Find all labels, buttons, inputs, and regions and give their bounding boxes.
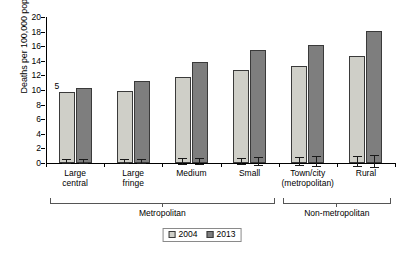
x-axis-category-label: Large central (42, 168, 108, 188)
error-bar-cap-bottom (120, 163, 129, 164)
y-axis-tick-label: 0 (21, 159, 41, 167)
error-bar-cap-top (137, 159, 146, 160)
error-bar-cap-top (254, 157, 263, 158)
bar-2004[interactable] (175, 77, 191, 163)
error-bar-cap-top (370, 155, 379, 156)
legend-label-2004: 2004 (179, 230, 198, 239)
x-axis-category-label: Town/city (metropolitan) (275, 168, 341, 188)
legend-swatch-icon-2004 (169, 231, 176, 238)
y-axis-tick-label: 20 (21, 13, 41, 21)
x-axis-tick (337, 163, 338, 167)
x-axis-category-label: Large fringe (100, 168, 166, 188)
bracket-center-tick (162, 203, 163, 207)
y-axis-tick-label: 2 (21, 144, 41, 152)
x-axis-category-label: Small (217, 168, 283, 178)
y-axis-line (46, 17, 47, 164)
bar-2013[interactable] (308, 45, 324, 163)
bar-2004[interactable] (349, 56, 365, 163)
error-bar-cap-bottom (295, 165, 304, 166)
y-axis-tick-label: 18 (21, 28, 41, 36)
y-axis-tick (41, 32, 45, 33)
category-group-brackets: MetropolitanNon-metropolitan (46, 198, 395, 228)
bar-2013[interactable] (366, 31, 382, 163)
y-axis-tick (41, 148, 45, 149)
y-axis-tick (41, 75, 45, 76)
y-axis-tick (41, 90, 45, 91)
error-bar-cap-bottom (237, 164, 246, 165)
error-bar-cap-top (312, 156, 321, 157)
error-bar-cap-top (237, 158, 246, 159)
bracket-center-tick (336, 203, 337, 207)
bracket-right-tick (390, 198, 391, 203)
error-bar-cap-top (295, 157, 304, 158)
x-axis-tick (279, 163, 280, 167)
error-bar-cap-bottom (62, 163, 71, 164)
legend-item-2013[interactable]: 2013 (207, 230, 236, 239)
legend-item-2004[interactable]: 2004 (169, 230, 198, 239)
bar-2004[interactable] (291, 66, 307, 163)
error-bar-cap-bottom (137, 163, 146, 164)
group-bracket-label: Non-metropolitan (253, 208, 404, 218)
x-axis-category-label: Rural (333, 168, 399, 178)
y-axis-tick-label: 6 (21, 115, 41, 123)
bar-group (175, 17, 208, 163)
bar-group (233, 17, 266, 163)
bar-2013[interactable] (76, 88, 92, 163)
bar-group (59, 17, 92, 163)
y-axis-tick (41, 61, 45, 62)
x-axis-tick (395, 163, 396, 167)
category-labels: Large centralLarge fringeMediumSmallTown… (46, 168, 395, 198)
group-bracket (283, 198, 391, 205)
bar-2013[interactable] (134, 81, 150, 163)
y-axis-tick-label: 14 (21, 57, 41, 65)
y-axis-tick (41, 17, 45, 18)
bracket-right-tick (274, 198, 275, 203)
y-axis-tick (41, 134, 45, 135)
bar-group (117, 17, 150, 163)
plot-area: 02468101214161820 5 (46, 17, 395, 164)
legend-swatch-icon-2013 (207, 231, 214, 238)
bar-group (291, 17, 324, 163)
y-axis-tick-label: 12 (21, 71, 41, 79)
error-bar-cap-top (120, 159, 129, 160)
error-bar-cap-top (195, 158, 204, 159)
error-bar-cap-bottom (178, 164, 187, 165)
y-axis-tick (41, 105, 45, 106)
y-axis-tick-label: 10 (21, 86, 41, 94)
error-bar-cap-top (353, 156, 362, 157)
y-axis-tick-label: 16 (21, 42, 41, 50)
y-axis-tick (41, 163, 45, 164)
error-bar-cap-bottom (254, 165, 263, 166)
bar-2013[interactable] (250, 50, 266, 163)
x-axis-category-label: Medium (158, 168, 224, 178)
bar-2004[interactable] (117, 91, 133, 163)
y-axis-tick-label: 8 (21, 101, 41, 109)
legend-label-2013: 2013 (217, 230, 236, 239)
error-bar-cap-top (62, 159, 71, 160)
x-axis-tick (46, 163, 47, 167)
y-axis-tick-label: 4 (21, 130, 41, 138)
bar-2004[interactable] (233, 70, 249, 163)
y-axis-tick (41, 46, 45, 47)
bar-chart: Deaths per 100,000 pop. 0246810121416182… (0, 0, 404, 257)
error-bar-cap-bottom (79, 163, 88, 164)
bar-2004[interactable] (59, 92, 75, 163)
error-bar-cap-bottom (195, 164, 204, 165)
x-axis-tick (162, 163, 163, 167)
legend: 2004 2013 (163, 228, 242, 242)
x-axis-tick (221, 163, 222, 167)
bar-group (349, 17, 382, 163)
error-bar-cap-top (178, 158, 187, 159)
footnote-marker: 5 (55, 81, 60, 91)
x-axis-tick (104, 163, 105, 167)
error-bar-cap-top (79, 159, 88, 160)
y-axis-tick (41, 119, 45, 120)
group-bracket (50, 198, 275, 205)
bar-2013[interactable] (192, 62, 208, 163)
error-bar-cap-bottom (312, 166, 321, 167)
